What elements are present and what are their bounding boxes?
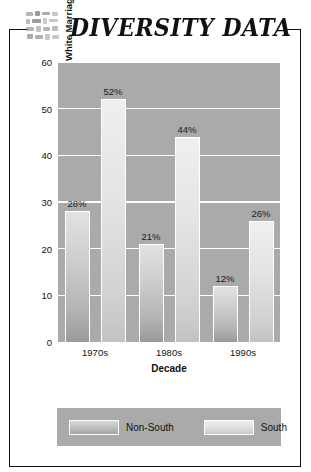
bar-1990s-non-south — [213, 286, 238, 342]
y-tick-label: 20 — [28, 243, 52, 254]
bar-value-label: 28% — [67, 198, 86, 209]
legend-label-non-south: Non-South — [126, 422, 174, 433]
gridline — [58, 155, 280, 157]
legend-item-south: South — [204, 420, 287, 435]
bar-value-label: 52% — [103, 86, 122, 97]
bar-1980s-south — [175, 137, 200, 342]
y-tick-label: 40 — [28, 150, 52, 161]
bar-1970s-south — [101, 99, 126, 342]
y-tick-label: 10 — [28, 290, 52, 301]
gridline — [58, 295, 280, 297]
legend-label-south: South — [261, 422, 287, 433]
gridline — [58, 201, 280, 203]
chart-legend: Non-South South — [57, 408, 281, 446]
x-axis-title: Decade — [58, 363, 280, 374]
bar-value-label: 44% — [177, 124, 196, 135]
x-tick-label: 1980s — [156, 347, 182, 358]
bar-1990s-south — [249, 221, 274, 342]
plot-area: 28%52%21%44%12%26% — [58, 62, 280, 342]
y-tick-label: 50 — [28, 103, 52, 114]
bar-value-label: 21% — [141, 231, 160, 242]
gridline — [58, 108, 280, 110]
y-tick-label: 60 — [28, 57, 52, 68]
bar-1970s-non-south — [65, 211, 90, 342]
y-tick-label: 0 — [28, 337, 52, 348]
bar-value-label: 26% — [251, 208, 270, 219]
x-tick-label: 1970s — [82, 347, 108, 358]
gridline — [58, 61, 280, 63]
x-tick-label: 1990s — [230, 347, 256, 358]
legend-swatch-south — [204, 420, 254, 435]
y-tick-label: 30 — [28, 197, 52, 208]
bar-value-label: 12% — [215, 273, 234, 284]
legend-item-non-south: Non-South — [69, 420, 174, 435]
gridline — [58, 248, 280, 250]
bar-1980s-non-south — [139, 244, 164, 342]
legend-swatch-non-south — [69, 420, 119, 435]
chart-figure: Percent of Whites Favoring Laws against … — [9, 29, 301, 467]
